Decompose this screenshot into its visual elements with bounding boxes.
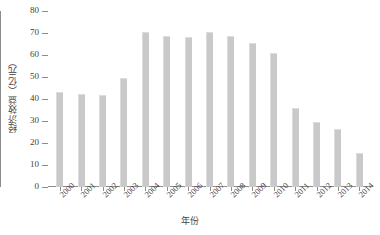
y-tick-70	[42, 33, 48, 34]
bar-2004	[142, 32, 149, 187]
x-axis-title-label: 年份	[181, 216, 199, 226]
y-tick-0	[42, 187, 48, 188]
y-tick-50	[42, 77, 48, 78]
x-axis-title: 年份	[0, 214, 380, 227]
y-tick-label-20: 20	[0, 138, 39, 147]
bar-2012	[313, 122, 320, 187]
y-tick-40	[42, 99, 48, 100]
bar-2014	[356, 153, 363, 187]
bar-2000	[56, 92, 63, 187]
bar-2006	[185, 37, 192, 187]
y-tick-label-10: 10	[0, 160, 39, 169]
bar-chart: 经济效益（亿元） 01020304050607080 2000200120022…	[0, 0, 380, 235]
y-tick-label-70: 70	[0, 28, 39, 37]
y-tick-60	[42, 55, 48, 56]
y-tick-80	[42, 11, 48, 12]
bar-2008	[227, 36, 234, 187]
bar-2011	[292, 108, 299, 187]
bar-2005	[163, 36, 170, 187]
bar-2002	[99, 95, 106, 187]
y-tick-30	[42, 121, 48, 122]
bar-2003	[120, 78, 127, 187]
y-tick-label-60: 60	[0, 50, 39, 59]
bar-2010	[270, 53, 277, 187]
y-tick-label-0: 0	[0, 182, 39, 191]
y-tick-label-30: 30	[0, 116, 39, 125]
bars-container	[49, 11, 370, 187]
y-tick-label-40: 40	[0, 94, 39, 103]
y-tick-10	[42, 165, 48, 166]
bar-2007	[206, 32, 213, 187]
y-tick-label-50: 50	[0, 72, 39, 81]
y-tick-label-80: 80	[0, 6, 39, 15]
y-tick-20	[42, 143, 48, 144]
bar-2001	[78, 94, 85, 188]
bar-2009	[249, 43, 256, 187]
bar-2013	[334, 129, 341, 187]
